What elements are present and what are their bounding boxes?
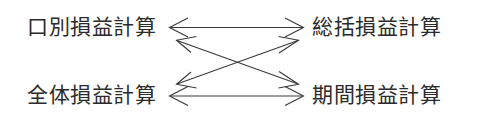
diagram-figure: 口別損益計算 総括損益計算 全体損益計算 期間損益計算 <box>0 0 478 118</box>
connector-layer <box>0 0 478 118</box>
connector-top-horizontal <box>170 18 304 37</box>
connector-bottom-horizontal <box>170 87 304 106</box>
connector-diagonal-up-right <box>177 37 299 89</box>
